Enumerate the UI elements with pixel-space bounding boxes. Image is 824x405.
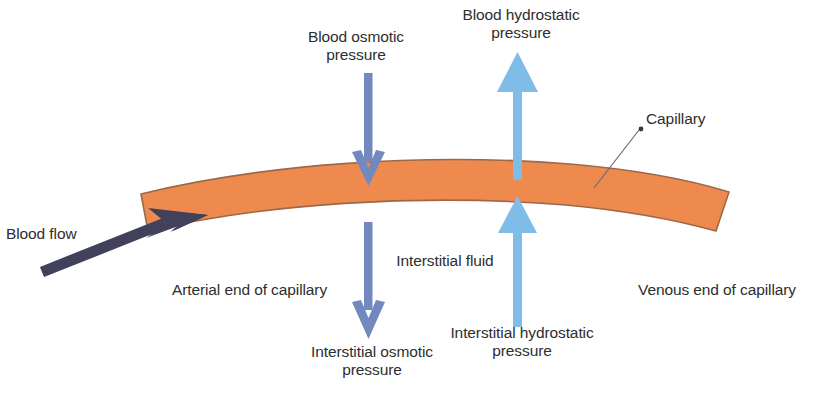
interstitial-hydrostatic-pressure-label: Interstitial hydrostatic pressure	[422, 324, 622, 361]
arterial-end-label: Arterial end of capillary	[142, 281, 357, 299]
blood-osmotic-pressure-label: Blood osmotic pressure	[276, 28, 436, 65]
capillary-vessel-shape	[141, 160, 729, 231]
capillary-label: Capillary	[646, 110, 776, 128]
blood-hydrostatic-pressure-label: Blood hydrostatic pressure	[438, 6, 604, 43]
capillary-exchange-diagram: Blood osmotic pressure Blood hydrostatic…	[0, 0, 824, 405]
blood-flow-label: Blood flow	[6, 225, 118, 243]
venous-end-label: Venous end of capillary	[612, 281, 822, 299]
interstitial-fluid-label: Interstitial fluid	[375, 252, 515, 270]
